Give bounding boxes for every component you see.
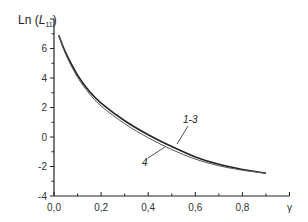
- y-tick-label: 2: [41, 102, 47, 113]
- curve-4: [59, 35, 266, 173]
- x-axis-title: γ: [287, 202, 292, 213]
- x-tick-label: 0,0: [47, 202, 61, 213]
- axes: [50, 19, 290, 196]
- y-tick-label: -4: [38, 191, 47, 202]
- y-tick-label: 0: [41, 132, 47, 143]
- y-tick-label: -2: [38, 161, 47, 172]
- x-tick-label: 0,2: [94, 202, 108, 213]
- x-tick-label: 0,4: [141, 202, 155, 213]
- curve-label-4: 4: [142, 157, 148, 168]
- y-tick-label: 6: [41, 43, 47, 54]
- curve-label-1-3: 1-3: [183, 114, 198, 125]
- y-tick-label: 4: [41, 73, 47, 84]
- x-tick-label: 0,8: [235, 202, 249, 213]
- y-axis-title: Ln (L11): [18, 13, 57, 28]
- labels: 0,00,20,40,60,8γ-4-20246Ln (L11)1-34: [18, 13, 292, 213]
- curves: [59, 35, 266, 173]
- chart: 0,00,20,40,60,8γ-4-20246Ln (L11)1-34: [0, 0, 308, 222]
- x-tick-label: 0,6: [188, 202, 202, 213]
- leader-line-4: [148, 147, 165, 158]
- leader-line-1-3: [177, 126, 188, 144]
- curve-1-3: [59, 35, 266, 173]
